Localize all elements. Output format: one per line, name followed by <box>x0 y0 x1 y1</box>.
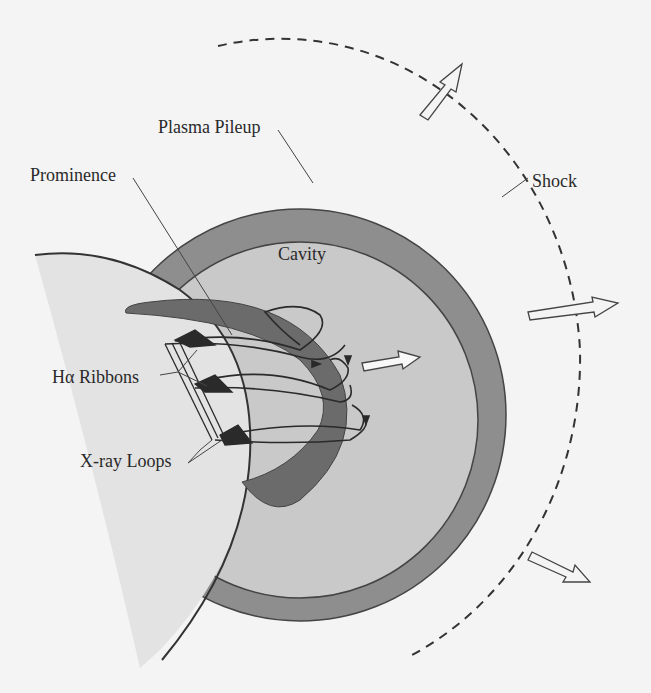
label-shock: Shock <box>532 172 577 190</box>
shock-arrow-bottom <box>528 552 590 582</box>
label-ha-ribbons: Hα Ribbons <box>52 368 139 386</box>
shock-arrow-top <box>420 64 462 120</box>
label-prominence: Prominence <box>30 166 116 184</box>
cme-diagram <box>0 0 651 693</box>
label-plasma-pileup: Plasma Pileup <box>158 118 261 136</box>
label-cavity: Cavity <box>278 245 326 263</box>
label-xray-loops: X-ray Loops <box>80 452 171 470</box>
